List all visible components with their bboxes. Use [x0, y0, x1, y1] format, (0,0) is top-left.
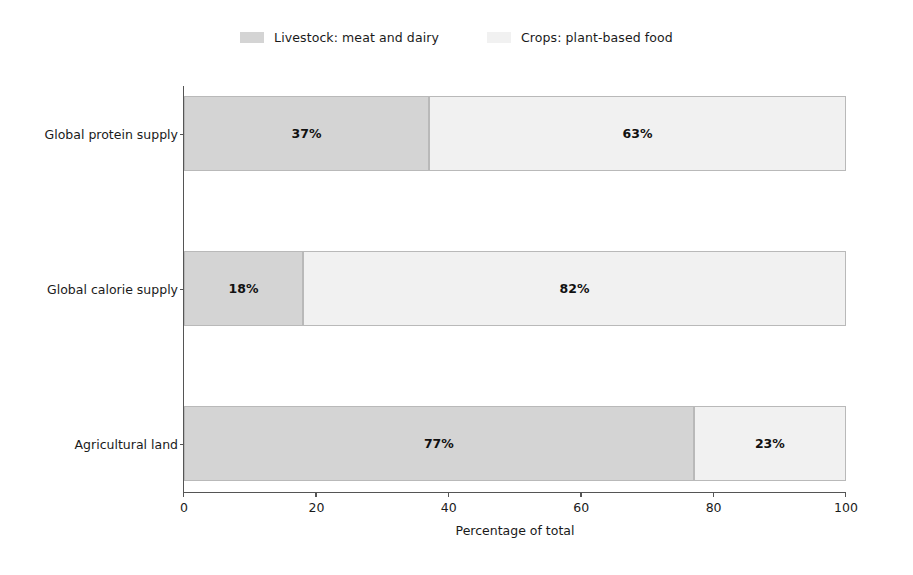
x-tick-mark-1 [315, 492, 316, 497]
x-tick-mark-5 [845, 492, 846, 497]
x-tick-mark-0 [183, 492, 184, 497]
x-tick-mark-4 [713, 492, 714, 497]
bar-segment-livestock-2[interactable] [184, 406, 694, 481]
table-row: 37% 63% [184, 96, 846, 171]
y-tick-label-2: Agricultural land [75, 437, 178, 452]
x-tick-label-5: 100 [834, 500, 858, 515]
table-row: 18% 82% [184, 251, 846, 326]
legend-label-crops: Crops: plant-based food [521, 30, 673, 45]
y-tick-label-0: Global protein supply [45, 127, 178, 142]
x-tick-label-2: 40 [441, 500, 457, 515]
legend-swatch-livestock [240, 32, 264, 43]
legend-entry-livestock[interactable]: Livestock: meat and dairy [240, 30, 439, 45]
bar-segment-crops-1[interactable] [303, 251, 846, 326]
x-tick-mark-2 [448, 492, 449, 497]
y-tick-label-1: Global calorie supply [47, 282, 178, 297]
chart-figure: Livestock: meat and dairy Crops: plant-b… [0, 0, 913, 575]
bar-segment-livestock-1[interactable] [184, 251, 303, 326]
y-axis-tick-labels: Global protein supply Global calorie sup… [0, 86, 178, 492]
legend-swatch-crops [487, 32, 511, 43]
x-tick-label-0: 0 [180, 500, 188, 515]
bar-segment-crops-0[interactable] [429, 96, 846, 171]
x-axis-spine [183, 492, 846, 493]
x-tick-label-3: 60 [573, 500, 589, 515]
plot-area: 37% 63% 18% 82% 77% 23% 0 20 40 60 80 10… [184, 86, 846, 492]
legend-entry-crops[interactable]: Crops: plant-based food [487, 30, 673, 45]
bar-segment-livestock-0[interactable] [184, 96, 429, 171]
chart-legend: Livestock: meat and dairy Crops: plant-b… [0, 26, 913, 48]
x-tick-label-4: 80 [706, 500, 722, 515]
bar-segment-crops-2[interactable] [694, 406, 846, 481]
x-tick-mark-3 [580, 492, 581, 497]
x-axis-label: Percentage of total [184, 523, 846, 538]
legend-label-livestock: Livestock: meat and dairy [274, 30, 439, 45]
x-tick-label-1: 20 [308, 500, 324, 515]
table-row: 77% 23% [184, 406, 846, 481]
